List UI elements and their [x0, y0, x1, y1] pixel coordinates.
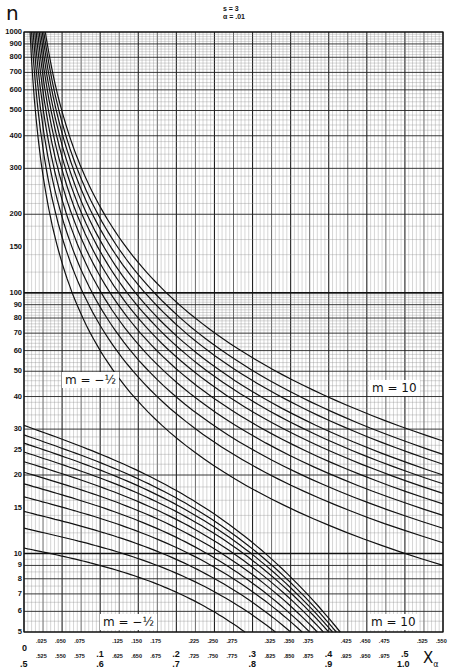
y-tick-label: 7 [0, 589, 22, 598]
annotation-m-10-upper: m = 10 [369, 380, 420, 396]
x-tick-label: .475 [379, 638, 390, 644]
x-tick-label: .675 [150, 653, 161, 659]
x-tick-label: .7 [172, 659, 180, 669]
x-tick-label: .975 [379, 653, 390, 659]
curve [42, 32, 443, 464]
y-tick-label: 70 [0, 328, 22, 337]
y-tick-label: 150 [0, 242, 22, 251]
y-tick-label: 40 [0, 392, 22, 401]
x-tick-label: .950 [360, 653, 371, 659]
y-tick-label: 10 [0, 549, 22, 558]
y-tick-label: 300 [0, 163, 22, 172]
x-tick-label: .4 [325, 649, 333, 659]
y-tick-label: 20 [0, 470, 22, 479]
x-tick-label: .625 [112, 653, 123, 659]
x-tick-label: .150 [131, 638, 142, 644]
y-tick-label: 500 [0, 105, 22, 114]
x-tick-label: .425 [341, 638, 352, 644]
y-tick-label: 700 [0, 67, 22, 76]
y-tick-label: 800 [0, 52, 22, 61]
x-tick-label: .5 [401, 649, 409, 659]
x-tick-label: .275 [227, 638, 238, 644]
x-tick-label: .525 [36, 653, 47, 659]
x-tick-label: .175 [150, 638, 161, 644]
x-tick-label: .650 [131, 653, 142, 659]
x-tick-label: .525 [417, 638, 428, 644]
y-tick-label: 80 [0, 313, 22, 322]
curve [24, 443, 333, 632]
y-tick-label: 100 [0, 288, 22, 297]
x-tick-label: .875 [303, 653, 314, 659]
y-tick-label: 50 [0, 366, 22, 375]
x-tick-label: .575 [74, 653, 85, 659]
x-tick-label: 0 [22, 643, 27, 653]
x-tick-label: .825 [265, 653, 276, 659]
x-tick-label: .325 [265, 638, 276, 644]
x-tick-label: .775 [227, 653, 238, 659]
y-tick-label: 25 [0, 445, 22, 454]
x-tick-label: .225 [188, 638, 199, 644]
y-tick-label: 200 [0, 209, 22, 218]
y-tick-label: 60 [0, 346, 22, 355]
y-tick-label: 6 [0, 606, 22, 615]
x-tick-label: .450 [360, 638, 371, 644]
annotation-m-minus-half-upper: m = −½ [62, 372, 119, 388]
y-tick-label: 900 [0, 39, 22, 48]
x-axis-title: Xα [423, 649, 439, 669]
curve [30, 32, 443, 565]
grid [24, 32, 443, 632]
x-tick-label: .850 [284, 653, 295, 659]
x-tick-label: .050 [55, 638, 66, 644]
annotation-m-minus-half-lower: m = −½ [100, 614, 157, 630]
x-tick-label: .375 [303, 638, 314, 644]
x-tick-label: .075 [74, 638, 85, 644]
y-tick-label: 600 [0, 85, 22, 94]
y-tick-label: 30 [0, 424, 22, 433]
x-tick-label: .750 [207, 653, 218, 659]
x-tick-label: .250 [207, 638, 218, 644]
chart-plot [0, 0, 456, 669]
y-tick-label: 8 [0, 574, 22, 583]
y-tick-label: 400 [0, 131, 22, 140]
x-tick-label: .550 [55, 653, 66, 659]
x-tick-label: .2 [172, 649, 180, 659]
y-tick-label: 90 [0, 300, 22, 309]
x-tick-label: .1 [96, 649, 104, 659]
x-tick-label: .5 [20, 659, 28, 669]
y-tick-label: 5 [0, 627, 22, 636]
x-tick-label: .925 [341, 653, 352, 659]
x-tick-label: .550 [436, 638, 447, 644]
y-tick-label: 15 [0, 503, 22, 512]
curve [24, 484, 310, 632]
x-tick-label: .350 [284, 638, 295, 644]
annotation-m-10-lower: m = 10 [368, 614, 419, 630]
x-tick-label: .3 [249, 649, 257, 659]
x-tick-label: 1.0 [397, 659, 410, 669]
x-tick-label: .8 [249, 659, 257, 669]
y-tick-label: 1000 [0, 27, 22, 36]
x-tick-label: .025 [36, 638, 47, 644]
x-tick-label: .725 [188, 653, 199, 659]
y-tick-label: 9 [0, 560, 22, 569]
x-tick-label: .9 [325, 659, 333, 669]
x-tick-label: .6 [96, 659, 104, 669]
x-tick-label: .125 [112, 638, 123, 644]
